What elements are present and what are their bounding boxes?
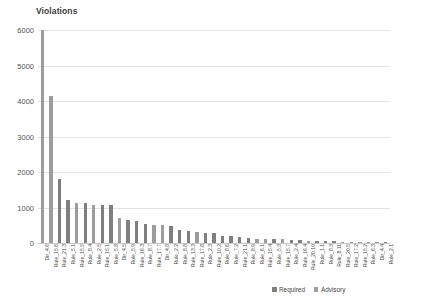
x-axis-tick-label: Rule_17.8 — [199, 244, 205, 267]
bar — [66, 200, 69, 243]
x-axis-tick-label: Rule_8.3 — [328, 244, 334, 264]
bar — [92, 205, 95, 243]
bar — [58, 179, 61, 243]
x-axis-tick-label: Rule_8.6 — [224, 244, 230, 264]
x-axis-tick-label: Rule_1.1 — [319, 244, 325, 264]
x-axis-tick-label: Rule_10.2 — [216, 244, 222, 267]
bar — [109, 205, 112, 243]
chart-title: Violations — [36, 6, 77, 16]
y-axis-tick-label: 1000 — [0, 203, 34, 212]
legend-label-advisory: Advisory — [321, 286, 346, 293]
legend-entry-required: Required — [272, 286, 305, 293]
bar — [212, 233, 215, 243]
chart-legend: Required Advisory — [272, 286, 345, 293]
x-axis-tick-label: Rule_17.2 — [353, 244, 359, 267]
y-axis-tick-label: 3000 — [0, 132, 34, 141]
x-axis-tick-label: Rule_6.3 — [370, 244, 376, 264]
x-axis-tick-label: Rule_15.2 — [362, 244, 368, 267]
x-axis-tick-label: Rule_16.4 — [302, 244, 308, 267]
x-axis-tick-label: Rule_13.3 — [190, 244, 196, 267]
x-axis-tick-label: Rule_20.5 — [345, 244, 351, 267]
bar — [41, 30, 44, 243]
x-axis-tick-label: Rule_8.9 — [250, 244, 256, 264]
x-axis-tick-label: Rule_17.7 — [156, 244, 162, 267]
bar — [84, 203, 87, 243]
x-axis-tick-label: Dir_4.5 — [121, 244, 127, 260]
x-axis-tick-label: Rule_2.5 — [96, 244, 102, 264]
x-axis-tick-label: Rule_21.3 — [61, 244, 67, 267]
legend-swatch-required — [272, 287, 277, 292]
y-axis-tick-label: 5000 — [0, 61, 34, 70]
y-axis: 0100020003000400050006000 — [0, 30, 34, 243]
x-axis-tick-label: Rule_7.2 — [233, 244, 239, 264]
gridline — [38, 101, 390, 102]
x-axis-tick-label: Rule_5.8 — [113, 244, 119, 264]
x-axis-tick-label: Rule_21.1 — [242, 244, 248, 267]
gridline — [38, 30, 390, 31]
x-axis-tick-label: Rule_8.4 — [87, 244, 93, 264]
x-axis-tick-label: Dir_4.8 — [164, 244, 170, 260]
x-axis-tick-label: Dir_4.4 — [379, 244, 385, 260]
bar — [144, 224, 147, 243]
x-axis-tick-label: Rule_2.3 — [207, 244, 213, 264]
x-axis-tick-label: Rule_15.4 — [267, 244, 273, 267]
bar — [135, 221, 138, 243]
y-axis-tick-label: 0 — [0, 239, 34, 248]
bar — [204, 233, 207, 243]
x-axis-tick-label: Rule_5.1 — [70, 244, 76, 264]
bar — [118, 218, 121, 243]
x-axis-tick-label: Rule_6.1 — [259, 244, 265, 264]
y-axis-tick-label: 4000 — [0, 97, 34, 106]
plot-area — [38, 30, 390, 243]
x-axis-tick-label: Rule_15.7 — [285, 244, 291, 267]
bar — [49, 96, 52, 243]
y-axis-tick-label: 2000 — [0, 168, 34, 177]
bar — [101, 205, 104, 243]
x-axis-tick-label: Rule_2.2 — [173, 244, 179, 264]
bar — [169, 226, 172, 243]
x-axis-tick-label: Rule_2.1 — [388, 244, 394, 264]
gridline — [38, 208, 390, 209]
bar — [161, 225, 164, 243]
x-axis-tick-label: Rule_5.9 — [130, 244, 136, 264]
x-axis-tick-label: Rule_2.4 — [293, 244, 299, 264]
legend-swatch-advisory — [314, 287, 319, 292]
gridline — [38, 137, 390, 138]
x-axis-tick-label: Rule_5.3 — [276, 244, 282, 264]
bar — [187, 231, 190, 243]
bar — [75, 203, 78, 243]
violations-bar-chart: Violations 0100020003000400050006000 Dir… — [0, 0, 426, 305]
x-axis-tick-label: Rule_20.10 — [310, 244, 316, 270]
legend-label-required: Required — [279, 286, 305, 293]
x-axis-tick-label: Rule_8.11 — [336, 244, 342, 267]
bar — [195, 232, 198, 243]
x-axis-tick-label: Rule_15.1 — [104, 244, 110, 267]
y-axis-tick-label: 6000 — [0, 26, 34, 35]
legend-entry-advisory: Advisory — [314, 286, 346, 293]
bar — [152, 225, 155, 243]
x-axis-labels: Dir_4.6Rule_15.6Rule_21.3Rule_5.1Rule_15… — [38, 244, 390, 292]
gridline — [38, 172, 390, 173]
x-axis-tick-label: Rule_16.3 — [139, 244, 145, 267]
bar — [221, 236, 224, 243]
x-axis-tick-label: Rule_15.6 — [53, 244, 59, 267]
x-axis-tick-label: Dir_4.6 — [44, 244, 50, 260]
gridline — [38, 66, 390, 67]
bar — [126, 220, 129, 243]
x-axis-tick-label: Rule_8.8 — [182, 244, 188, 264]
x-axis-tick-label: Rule_15.5 — [79, 244, 85, 267]
x-axis-tick-label: Rule_8.7 — [147, 244, 153, 264]
bar — [178, 230, 181, 243]
